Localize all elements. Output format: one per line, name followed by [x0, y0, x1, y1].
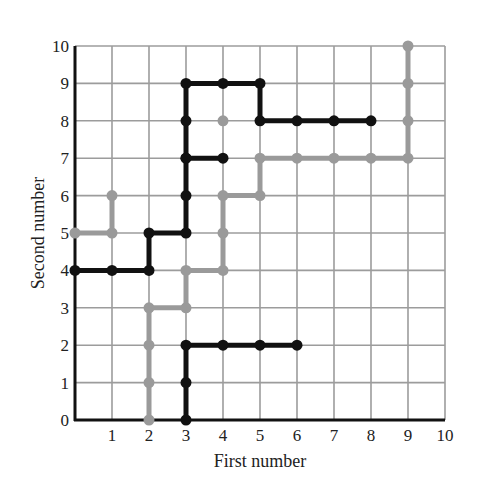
data-point — [181, 265, 192, 276]
y-tick-label: 6 — [61, 187, 70, 206]
data-point — [144, 340, 155, 351]
data-point — [181, 377, 192, 388]
data-point — [70, 228, 81, 239]
data-point — [107, 228, 118, 239]
data-point — [329, 115, 340, 126]
data-point — [292, 153, 303, 164]
data-point — [366, 153, 377, 164]
x-tick-label: 1 — [108, 426, 117, 445]
data-point — [366, 115, 377, 126]
x-tick-label: 5 — [256, 426, 265, 445]
data-point — [255, 340, 266, 351]
data-point — [144, 265, 155, 276]
data-point — [181, 115, 192, 126]
y-tick-label: 9 — [61, 74, 70, 93]
data-point — [107, 190, 118, 201]
x-tick-label: 10 — [437, 426, 454, 445]
x-tick-label: 7 — [330, 426, 339, 445]
y-tick-label: 3 — [61, 299, 70, 318]
y-tick-label: 1 — [61, 374, 70, 393]
y-axis-label: Second number — [28, 177, 48, 289]
data-point — [329, 153, 340, 164]
data-point — [181, 340, 192, 351]
data-point — [218, 78, 229, 89]
data-point — [144, 228, 155, 239]
data-point — [181, 228, 192, 239]
data-point — [218, 190, 229, 201]
data-point — [218, 153, 229, 164]
data-point — [292, 340, 303, 351]
data-point — [181, 190, 192, 201]
y-tick-label: 0 — [61, 411, 70, 430]
x-tick-label: 4 — [219, 426, 228, 445]
data-point — [181, 302, 192, 313]
data-point — [255, 153, 266, 164]
data-point — [403, 115, 414, 126]
data-point — [403, 41, 414, 52]
data-point — [255, 78, 266, 89]
x-axis-label: First number — [214, 451, 307, 471]
data-point — [218, 228, 229, 239]
data-point — [181, 78, 192, 89]
y-tick-label: 5 — [61, 224, 70, 243]
x-tick-label: 8 — [367, 426, 376, 445]
series-gray-path-left — [70, 190, 118, 238]
x-tick-label: 9 — [404, 426, 413, 445]
data-point — [181, 415, 192, 426]
x-tick-label: 2 — [145, 426, 154, 445]
data-point — [144, 415, 155, 426]
data-point — [144, 377, 155, 388]
data-point — [403, 78, 414, 89]
series-gray-isolated-point — [218, 115, 229, 126]
data-point — [403, 153, 414, 164]
y-tick-label: 10 — [52, 37, 69, 56]
data-point — [107, 265, 118, 276]
data-point — [218, 340, 229, 351]
y-tick-label: 7 — [61, 149, 70, 168]
data-point — [70, 265, 81, 276]
y-tick-label: 8 — [61, 112, 70, 131]
data-point — [255, 115, 266, 126]
data-point — [218, 265, 229, 276]
data-point — [255, 190, 266, 201]
data-point — [181, 153, 192, 164]
data-point — [292, 115, 303, 126]
path-line — [75, 196, 112, 233]
data-point — [218, 115, 229, 126]
y-tick-label: 2 — [61, 336, 70, 355]
x-tick-label: 3 — [182, 426, 191, 445]
chart: 12345678910012345678910 First number Sec… — [0, 0, 482, 484]
y-tick-label: 4 — [61, 261, 70, 280]
x-tick-label: 6 — [293, 426, 302, 445]
data-point — [144, 302, 155, 313]
